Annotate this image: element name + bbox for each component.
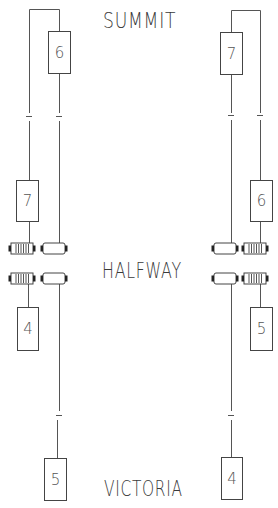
- car-right-low: 5: [250, 307, 273, 351]
- car-number: 4: [23, 320, 33, 338]
- funicular-diagram: SUMMIT HALFWAY VICTORIA 6 7 4 5 7 6 5 4: [0, 0, 278, 508]
- right-upper-geared-pulley: [242, 243, 269, 254]
- right-lower-plain-pulley: [212, 273, 239, 284]
- car-right-top: 7: [220, 32, 243, 75]
- car-number: 5: [257, 320, 267, 338]
- right-upper-plain-pulley: [212, 243, 239, 254]
- station-label-halfway: HALFWAY: [102, 258, 182, 283]
- car-number: 6: [55, 44, 65, 62]
- car-right-bottom: 4: [221, 457, 243, 500]
- car-number: 7: [227, 45, 237, 63]
- left-upper-geared-pulley: [9, 243, 36, 254]
- car-right-mid: 6: [250, 180, 273, 222]
- cable-lines: [26, 10, 263, 459]
- car-number: 7: [23, 192, 33, 210]
- car-left-mid: 7: [16, 180, 39, 222]
- left-lower-plain-pulley: [41, 273, 68, 284]
- left-upper-plain-pulley: [41, 243, 68, 254]
- car-number: 6: [257, 192, 267, 210]
- car-number: 4: [227, 470, 237, 488]
- car-number: 5: [51, 471, 61, 489]
- left-lower-geared-pulley: [9, 273, 36, 284]
- station-label-victoria: VICTORIA: [104, 476, 183, 501]
- car-left-top: 6: [48, 31, 71, 74]
- right-lower-geared-pulley: [242, 273, 269, 284]
- car-left-low: 4: [17, 307, 39, 351]
- station-label-summit: SUMMIT: [103, 8, 176, 33]
- car-left-bottom: 5: [44, 458, 67, 501]
